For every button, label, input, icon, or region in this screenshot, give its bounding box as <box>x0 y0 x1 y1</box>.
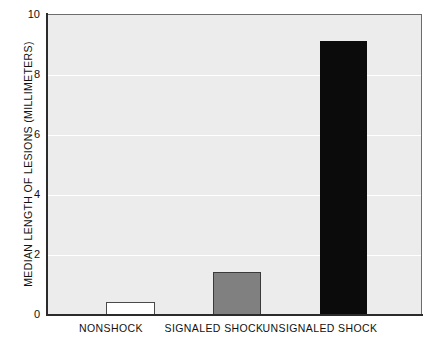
y-tick-label: 10 <box>6 8 40 20</box>
bar-unsignaled-shock <box>320 41 367 316</box>
plot-area <box>47 14 422 315</box>
y-tick-label: 8 <box>6 68 40 80</box>
y-tick-label: 0 <box>6 308 40 320</box>
bar-nonshock <box>106 302 155 316</box>
bar-chart: MEDIAN LENGTH OF LESIONS (MILLIMETERS) 0… <box>0 0 431 347</box>
y-axis-tick-labels: 0 2 4 6 8 10 <box>0 0 40 347</box>
x-tick-label-unsignaled-shock: UNSIGNALED SHOCK <box>250 322 390 334</box>
y-tick-label: 2 <box>6 248 40 260</box>
y-tick-label: 6 <box>6 128 40 140</box>
y-tick-label: 4 <box>6 188 40 200</box>
bar-signaled-shock <box>213 272 261 316</box>
y-axis-line <box>46 13 48 316</box>
x-axis-line <box>46 314 423 316</box>
